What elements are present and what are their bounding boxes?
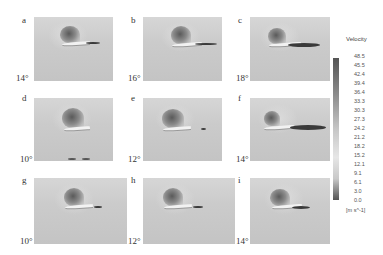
- colorbar-tick: 48.5: [354, 53, 365, 59]
- colorbar-tick: 12.1: [354, 161, 365, 167]
- panel-i-velocity-contour: [250, 178, 330, 244]
- angle-label-c: 18°: [236, 73, 249, 83]
- angle-label-d: 10°: [20, 154, 33, 164]
- colorbar-unit: [m s^-1]: [346, 207, 365, 213]
- velocity-colorbar: [333, 58, 339, 200]
- angle-label-f: 14°: [236, 154, 249, 164]
- panel-label-d: d: [22, 93, 27, 103]
- panel-label-f: f: [238, 93, 241, 103]
- panel-label-a: a: [22, 15, 26, 25]
- colorbar-tick: 39.4: [354, 80, 365, 86]
- colorbar-tick: 45.5: [354, 62, 365, 68]
- panel-label-g: g: [22, 175, 27, 185]
- panel-b-velocity-contour: [143, 17, 222, 81]
- colorbar-tick: 18.2: [354, 143, 365, 149]
- panel-label-e: e: [131, 93, 135, 103]
- panel-h-velocity-contour: [143, 178, 235, 244]
- panel-e-velocity-contour: [143, 98, 222, 161]
- angle-label-b: 16°: [128, 73, 141, 83]
- angle-label-i: 14°: [236, 236, 249, 246]
- colorbar-tick: 15.2: [354, 152, 365, 158]
- panel-g-velocity-contour: [34, 178, 127, 244]
- colorbar-tick: 30.3: [354, 107, 365, 113]
- colorbar-tick: 0.0: [354, 197, 362, 203]
- colorbar-tick: 3.0: [354, 188, 362, 194]
- colorbar-tick: 27.3: [354, 116, 365, 122]
- colorbar-title: Velocity: [346, 36, 367, 42]
- colorbar-tick: 36.4: [354, 89, 365, 95]
- colorbar-tick: 33.3: [354, 98, 365, 104]
- panel-label-i: i: [238, 175, 241, 185]
- colorbar-tick: 42.4: [354, 71, 365, 77]
- panel-label-b: b: [131, 15, 136, 25]
- angle-label-e: 12°: [128, 154, 141, 164]
- angle-label-g: 10°: [20, 236, 33, 246]
- colorbar-tick: 24.2: [354, 125, 365, 131]
- colorbar-tick: 21.2: [354, 134, 365, 140]
- panel-f-velocity-contour: [250, 98, 330, 161]
- panel-a-velocity-contour: [34, 17, 113, 81]
- angle-label-a: 14°: [16, 73, 29, 83]
- colorbar-tick: 6.1: [354, 179, 362, 185]
- panel-label-h: h: [131, 175, 136, 185]
- panel-c-velocity-contour: [250, 17, 330, 81]
- angle-label-h: 12°: [128, 236, 141, 246]
- colorbar-tick: 9.1: [354, 170, 362, 176]
- panel-label-c: c: [238, 15, 242, 25]
- panel-d-velocity-contour: [34, 98, 113, 161]
